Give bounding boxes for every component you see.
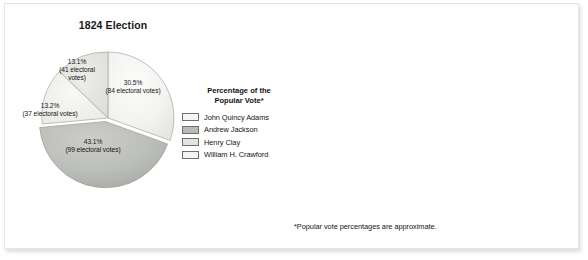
legend-title-1824: Percentage of the Popular Vote* — [182, 86, 296, 106]
legend-swatch-andrew-jackson — [182, 126, 199, 134]
legend-label-andrew-jackson: Andrew Jackson — [204, 125, 258, 134]
chart-panel-1824: 1824 Election — [6, 0, 296, 260]
election-pie-charts-figure: 1824 Election — [0, 0, 588, 260]
legend-item-william-h-crawford: William H. Crawford — [182, 149, 296, 162]
legend-swatch-henry-clay — [182, 138, 199, 146]
legend-label-henry-clay: Henry Clay — [204, 138, 240, 147]
legend-item-john-quincy-adams: John Quincy Adams — [182, 111, 296, 124]
legend-item-henry-clay: Henry Clay — [182, 136, 296, 149]
legend-label-john-quincy-adams: John Quincy Adams — [204, 113, 269, 122]
legend-label-william-h-crawford: William H. Crawford — [204, 150, 268, 159]
chart-panel-1828: 1828 Election — [296, 0, 582, 260]
legend-item-andrew-jackson: Andrew Jackson — [182, 124, 296, 137]
footnote-popular-vote: *Popular vote percentages are approximat… — [294, 222, 437, 231]
legend-swatch-john-quincy-adams — [182, 113, 199, 121]
legend-1824: Percentage of the Popular Vote* John Qui… — [182, 86, 296, 161]
chart-title-1824: 1824 Election — [28, 19, 198, 31]
legend-swatch-william-h-crawford — [182, 151, 199, 159]
slice-label-crawford-1824: 13.2% (37 electoral votes) — [12, 102, 88, 118]
slice-label-adams-1824: 30.5% (84 electoral votes) — [94, 79, 172, 95]
slice-label-jackson-1824: 43.1% (99 electoral votes) — [51, 138, 135, 154]
